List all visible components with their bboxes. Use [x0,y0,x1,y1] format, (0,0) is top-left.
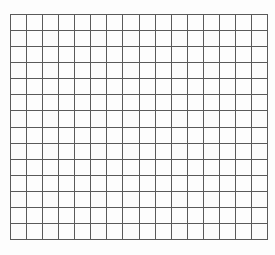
grid-paper [10,14,268,240]
grid-lines [10,14,268,240]
